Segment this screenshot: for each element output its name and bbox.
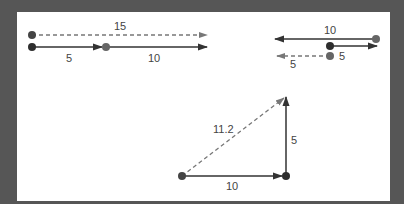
origin-dot xyxy=(178,172,186,180)
origin-dot xyxy=(28,43,36,51)
label-5: 5 xyxy=(291,134,297,146)
label-15: 15 xyxy=(114,20,126,32)
origin-dot xyxy=(28,31,36,39)
origin-dot xyxy=(326,52,334,60)
origin-dot xyxy=(326,42,334,50)
joint-dot xyxy=(282,172,290,180)
label-10: 10 xyxy=(226,180,238,192)
label-10: 10 xyxy=(148,52,160,64)
diagram-collinear-same: 15 5 10 xyxy=(28,20,207,64)
origin-dot xyxy=(372,35,380,43)
vector-diagram: 15 5 10 10 5 5 11.2 5 10 xyxy=(0,0,404,204)
label-5: 5 xyxy=(339,50,345,62)
label-10: 10 xyxy=(324,24,336,36)
resultant-arrow-11-2 xyxy=(182,98,284,176)
diagram-collinear-opposite: 10 5 5 xyxy=(275,24,380,70)
diagram-perpendicular: 11.2 5 10 xyxy=(178,97,297,192)
label-5-resultant: 5 xyxy=(290,58,296,70)
joint-dot xyxy=(102,43,110,51)
label-11-2: 11.2 xyxy=(213,123,234,135)
label-5: 5 xyxy=(66,52,72,64)
